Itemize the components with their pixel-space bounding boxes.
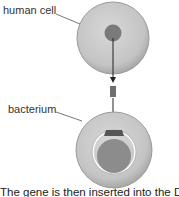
inserted-gene bbox=[104, 130, 124, 136]
caption-text: The gene is then inserted into the DN bbox=[0, 186, 179, 197]
human-cell-label: human cell bbox=[3, 4, 56, 16]
human-cell-leader-line bbox=[56, 14, 80, 24]
bacterium-label: bacterium bbox=[8, 103, 56, 115]
bacterial-dna bbox=[97, 139, 131, 173]
genetic-engineering-diagram bbox=[0, 0, 179, 197]
bacterium-leader-line bbox=[56, 112, 82, 121]
bacterium bbox=[76, 112, 152, 188]
gene-fragment bbox=[110, 86, 116, 97]
